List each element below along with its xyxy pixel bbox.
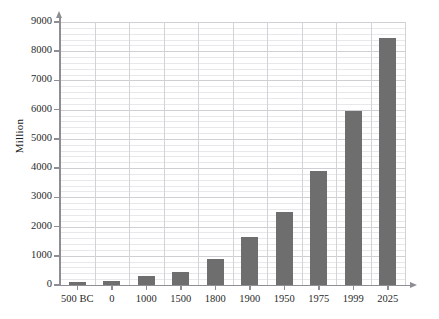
y-axis-tick-label: 0	[0, 278, 52, 289]
y-axis-tick	[54, 21, 59, 23]
x-axis-tick	[180, 285, 182, 290]
y-axis-tick-label: 8000	[0, 44, 52, 55]
y-axis-tick-label: 1000	[0, 249, 52, 260]
x-axis-tick	[249, 285, 251, 290]
plot-area	[60, 22, 405, 285]
bar-1800	[207, 259, 224, 285]
bar-1950	[276, 212, 293, 285]
y-axis-tick	[54, 109, 59, 111]
x-axis-tick	[215, 285, 217, 290]
gridline-vertical	[95, 22, 96, 285]
y-axis-tick	[54, 226, 59, 228]
gridline-vertical	[371, 22, 372, 285]
y-axis-tick-label: 9000	[0, 15, 52, 26]
y-axis-tick-label: 5000	[0, 132, 52, 143]
y-axis-tick	[54, 197, 59, 199]
gridline-vertical	[405, 22, 406, 285]
y-axis-tick-label: 6000	[0, 103, 52, 114]
x-axis-tick	[318, 285, 320, 290]
y-axis-arrow-icon	[56, 11, 62, 18]
x-axis-tick	[284, 285, 286, 290]
y-axis-tick	[54, 50, 59, 52]
gridline-vertical	[129, 22, 130, 285]
bar-1975	[310, 171, 327, 285]
chart-figure: Million 01000200030004000500060007000800…	[0, 0, 439, 319]
y-axis-tick-label: 3000	[0, 190, 52, 201]
x-axis-tick	[353, 285, 355, 290]
y-axis-tick	[54, 138, 59, 140]
gridline-vertical	[267, 22, 268, 285]
y-axis-tick	[54, 284, 59, 286]
bar-1999	[345, 111, 362, 285]
x-axis-tick	[111, 285, 113, 290]
gridline-vertical	[233, 22, 234, 285]
y-axis-line	[59, 16, 61, 286]
x-axis-tick	[387, 285, 389, 290]
y-axis-tick	[54, 255, 59, 257]
gridline-vertical	[164, 22, 165, 285]
gridline-vertical	[198, 22, 199, 285]
gridline-vertical	[302, 22, 303, 285]
x-axis-tick-label: 2025	[358, 293, 418, 304]
gridline-vertical	[336, 22, 337, 285]
bar-2025	[379, 38, 396, 285]
x-axis-tick	[77, 285, 79, 290]
y-axis-tick-label: 4000	[0, 161, 52, 172]
bar-1500	[172, 272, 189, 285]
y-axis-tick-label: 7000	[0, 73, 52, 84]
y-axis-tick-label: 2000	[0, 220, 52, 231]
x-axis-tick	[146, 285, 148, 290]
bar-1900	[241, 237, 258, 285]
x-axis-arrow-icon	[410, 282, 417, 288]
y-axis-tick	[54, 167, 59, 169]
y-axis-tick	[54, 80, 59, 82]
